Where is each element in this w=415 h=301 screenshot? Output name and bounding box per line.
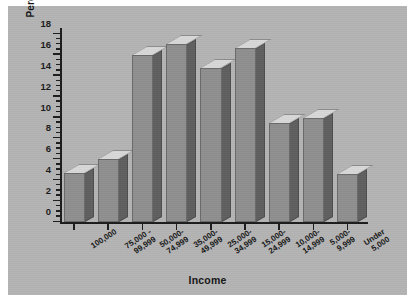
bar — [235, 48, 256, 222]
bar-top — [98, 150, 135, 159]
y-tick-major — [53, 158, 60, 160]
bar-top — [235, 39, 272, 48]
y-tick-minor — [56, 153, 60, 155]
x-tick-label: 100,000 — [90, 228, 119, 251]
y-tick-label: 12 — [40, 80, 51, 91]
bar-side — [85, 168, 94, 222]
y-tick-minor — [56, 43, 60, 45]
y-tick-minor — [56, 111, 60, 113]
bar — [132, 55, 153, 222]
bar-face — [64, 173, 85, 222]
y-tick-minor — [56, 184, 60, 186]
y-tick-minor — [56, 90, 60, 92]
y-tick-minor — [56, 142, 60, 144]
y-tick-label: 4 — [46, 164, 51, 175]
bar-side — [358, 169, 367, 222]
y-tick-label: 8 — [46, 122, 51, 133]
y-tick-label: 0 — [46, 206, 51, 217]
y-tick-minor — [56, 205, 60, 207]
y-tick-major — [53, 33, 60, 35]
x-tick-label: 50,000-74,999 — [158, 228, 190, 257]
bar-side — [256, 42, 265, 222]
bar-face — [132, 55, 153, 222]
bar — [98, 159, 119, 222]
bar-side — [324, 112, 333, 222]
bar-face — [200, 68, 221, 222]
bar-side — [187, 39, 196, 222]
y-tick-minor — [56, 59, 60, 61]
y-tick-minor — [56, 163, 60, 165]
y-tick-major — [53, 95, 60, 97]
y-tick-minor — [56, 174, 60, 176]
y-tick-label: 6 — [46, 143, 51, 154]
bar-face — [337, 174, 358, 222]
y-tick-major — [53, 221, 60, 223]
bar-top — [269, 114, 306, 123]
bar-side — [222, 63, 231, 222]
y-tick-minor — [56, 215, 60, 217]
chart-figure: Percent of Households 024681012141618 10… — [8, 6, 407, 295]
bar-top — [303, 109, 340, 118]
bar-top — [200, 59, 237, 68]
y-tick-minor — [56, 69, 60, 71]
plot-area: 024681012141618 — [60, 28, 368, 224]
y-tick-label: 10 — [40, 101, 51, 112]
y-tick-major — [53, 179, 60, 181]
bar — [64, 173, 85, 222]
x-tick-label: 75,000 -99,999 — [124, 228, 158, 258]
y-tick-major — [53, 137, 60, 139]
bar — [200, 68, 221, 222]
bar-top — [132, 46, 169, 55]
y-tick-minor — [56, 80, 60, 82]
bar — [269, 123, 290, 222]
y-tick-label: 14 — [40, 59, 51, 70]
bar-top — [64, 164, 101, 173]
y-tick-label: 18 — [40, 18, 51, 29]
y-tick-minor — [56, 38, 60, 40]
x-tick-label: 10,000-14,999 — [295, 228, 327, 257]
x-tick-label: 35,000-49,999 — [192, 228, 224, 257]
y-tick-minor — [56, 147, 60, 149]
y-tick-minor — [56, 100, 60, 102]
y-tick-label: 2 — [46, 185, 51, 196]
y-tick-minor — [56, 64, 60, 66]
x-axis-labels: 100,00075,000 -99,99950,000-74,99935,000… — [60, 228, 368, 274]
y-tick-minor — [56, 127, 60, 129]
y-tick-minor — [56, 189, 60, 191]
bar-face — [166, 44, 187, 222]
y-axis-title: Percent of Households — [25, 0, 36, 42]
y-tick-minor — [56, 210, 60, 212]
bar-side — [119, 154, 128, 222]
x-tick-label: Under5,000 — [363, 228, 392, 255]
bar-face — [303, 118, 324, 222]
y-tick-major — [53, 200, 60, 202]
y-tick-minor — [56, 194, 60, 196]
x-tick-label: 25,000-34,999 — [226, 228, 258, 257]
bar-face — [235, 48, 256, 222]
y-axis-line — [60, 28, 62, 224]
x-tick-label: 5,000-9,999 — [328, 228, 356, 255]
y-tick-major — [53, 116, 60, 118]
y-tick-minor — [56, 106, 60, 108]
bar-top — [337, 165, 374, 174]
y-tick-major — [53, 74, 60, 76]
y-tick-minor — [56, 132, 60, 134]
bar-top — [166, 35, 203, 44]
bar — [303, 118, 324, 222]
y-tick-minor — [56, 121, 60, 123]
x-tick-label: 15,000-24,999 — [261, 228, 293, 257]
x-axis-line — [60, 222, 368, 224]
y-tick-label: 16 — [40, 38, 51, 49]
y-tick-minor — [56, 48, 60, 50]
y-tick-minor — [56, 85, 60, 87]
bar — [166, 44, 187, 222]
bar-side — [153, 50, 162, 222]
x-axis-title: Income — [8, 274, 407, 286]
y-tick-major — [53, 53, 60, 55]
y-tick-minor — [56, 168, 60, 170]
bar-face — [98, 159, 119, 222]
bar-face — [269, 123, 290, 222]
bar — [337, 174, 358, 222]
bar-side — [290, 118, 299, 222]
